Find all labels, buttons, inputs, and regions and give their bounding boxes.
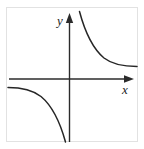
y-axis-arrow-icon <box>66 13 73 23</box>
y-axis-label: y <box>57 14 63 27</box>
graph-canvas <box>0 0 144 149</box>
x-axis-label: x <box>122 83 128 96</box>
curve-branch-quadrant-3 <box>8 88 66 143</box>
y-axis <box>66 13 73 142</box>
x-axis <box>9 75 134 83</box>
hyperbola-figure: y x <box>0 0 144 149</box>
curve-branch-quadrant-1 <box>80 12 138 67</box>
